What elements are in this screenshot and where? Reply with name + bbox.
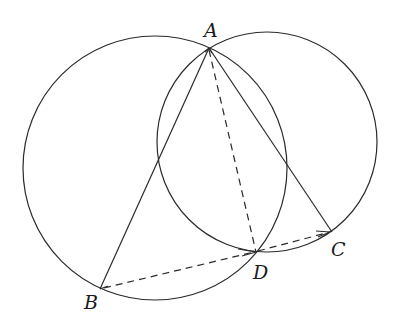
label-a: A	[202, 19, 218, 41]
label-b: B	[83, 291, 98, 313]
label-d: D	[252, 261, 268, 283]
geometry-diagram: A B C D	[0, 0, 394, 326]
segment-ad	[209, 50, 256, 252]
arrowhead-at-d-icon	[238, 249, 256, 256]
segment-bd	[104, 252, 254, 288]
segment-ab	[100, 48, 209, 289]
right-circle	[157, 32, 377, 252]
label-c: C	[331, 238, 346, 260]
segment-ac	[209, 48, 332, 232]
